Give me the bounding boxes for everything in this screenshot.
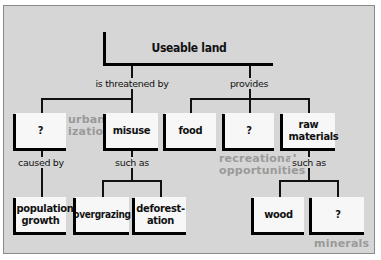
- connector: [279, 180, 281, 197]
- node-threat-unknown: ?: [15, 113, 66, 148]
- connector: [337, 180, 339, 197]
- node-label: misuse: [113, 125, 150, 137]
- node-wood: wood: [253, 197, 304, 232]
- relation-caused-by: caused by: [16, 157, 66, 168]
- bracket-left: [132, 198, 135, 234]
- node-label: ?: [38, 125, 43, 137]
- bracket-bottom: [309, 232, 364, 235]
- connector: [41, 98, 133, 100]
- relation-such-as: such as: [113, 157, 151, 168]
- connector: [102, 180, 104, 197]
- bracket-bottom: [251, 232, 304, 235]
- connector: [190, 98, 192, 113]
- node-label: wood: [264, 209, 293, 221]
- bracket-left: [103, 32, 106, 66]
- node-label: overgrazing: [73, 209, 130, 221]
- bracket-left: [103, 114, 106, 150]
- connector: [102, 180, 162, 182]
- node-misuse: misuse: [105, 113, 158, 148]
- bracket-left: [251, 198, 254, 234]
- bracket-bottom: [13, 148, 66, 151]
- node-overgrazing: overgrazing: [75, 197, 129, 232]
- node-deforestation: deforest- ation: [135, 197, 186, 232]
- node-label: population growth: [17, 203, 65, 227]
- node-label: ?: [246, 125, 251, 137]
- relation-provides: provides: [228, 78, 270, 89]
- bracket-bottom: [132, 232, 186, 235]
- connector: [249, 98, 251, 113]
- node-label: deforest- ation: [136, 203, 185, 227]
- bracket-bottom: [103, 63, 273, 66]
- connector: [160, 180, 162, 197]
- connector: [41, 98, 43, 113]
- node-provision-unknown: ?: [224, 113, 274, 148]
- node-label: ?: [335, 209, 340, 221]
- connector: [131, 90, 133, 113]
- relation-is-threatened-by: is threatened by: [93, 78, 170, 89]
- connector: [279, 180, 338, 182]
- bracket-bottom: [73, 232, 129, 235]
- bracket-bottom: [222, 148, 274, 151]
- bracket-left: [222, 114, 225, 150]
- bracket-bottom: [13, 232, 66, 235]
- node-label: food: [179, 125, 203, 137]
- bracket-left: [13, 114, 16, 150]
- answer-minerals: minerals: [314, 238, 369, 250]
- node-label: raw materials: [289, 119, 329, 143]
- bracket-left: [13, 198, 16, 234]
- connector: [308, 98, 310, 113]
- node-useable-land: Useable land: [106, 32, 272, 63]
- node-raw-materials: raw materials: [282, 113, 335, 148]
- bracket-left: [73, 198, 76, 234]
- node-food: food: [165, 113, 216, 148]
- bracket-left: [163, 114, 166, 150]
- relation-such-as: such as: [290, 157, 328, 168]
- node-population-growth: population growth: [15, 197, 66, 232]
- bracket-left: [309, 198, 312, 234]
- node-raw-unknown: ?: [312, 197, 364, 232]
- bracket-bottom: [163, 148, 216, 151]
- node-label: Useable land: [151, 42, 226, 54]
- bracket-left: [280, 114, 283, 150]
